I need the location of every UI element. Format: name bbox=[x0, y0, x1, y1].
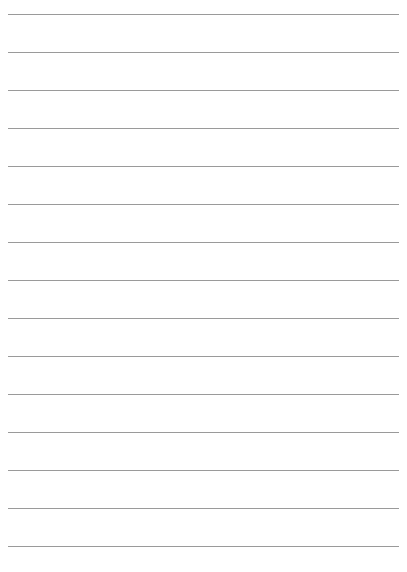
ruled-line bbox=[8, 394, 399, 395]
ruled-line bbox=[8, 546, 399, 547]
ruled-line bbox=[8, 470, 399, 471]
ruled-line bbox=[8, 356, 399, 357]
ruled-line bbox=[8, 242, 399, 243]
ruled-line bbox=[8, 128, 399, 129]
ruled-line bbox=[8, 432, 399, 433]
ruled-line bbox=[8, 318, 399, 319]
lined-paper-sheet bbox=[0, 0, 407, 572]
ruled-line bbox=[8, 508, 399, 509]
ruled-line bbox=[8, 166, 399, 167]
ruled-line bbox=[8, 14, 399, 15]
ruled-line bbox=[8, 280, 399, 281]
ruled-line bbox=[8, 52, 399, 53]
ruled-line bbox=[8, 90, 399, 91]
ruled-line bbox=[8, 204, 399, 205]
